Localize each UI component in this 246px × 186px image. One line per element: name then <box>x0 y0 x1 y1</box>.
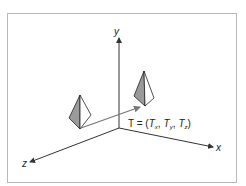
z-axis-label: z <box>21 158 27 169</box>
y-axis-label: y <box>113 26 120 37</box>
translation-diagram: y x z T = (Tx,Ty,Tz) <box>0 0 246 186</box>
z-axis <box>30 128 119 162</box>
x-axis-label: x <box>215 142 222 153</box>
x-axis <box>119 128 213 147</box>
original-pyramid <box>69 95 91 129</box>
coordinate-axes <box>30 38 213 162</box>
translation-equation: T = (Tx,Ty,Tz) <box>128 118 191 130</box>
translated-pyramid <box>134 71 154 106</box>
